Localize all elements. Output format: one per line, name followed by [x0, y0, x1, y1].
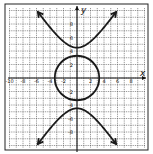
y-tick-label: 4 — [70, 48, 73, 54]
y-tick-label: -2 — [68, 89, 73, 95]
y-tick-label: 2 — [70, 62, 73, 68]
y-tick-label: 8 — [70, 21, 73, 27]
coordinate-graph: -10-8-6-4-224688642-2-4-6-8 x y — [0, 0, 153, 154]
x-tick-label: -10 — [5, 78, 13, 84]
x-axis-label: x — [139, 68, 146, 78]
x-tick-label: -2 — [61, 78, 66, 84]
y-tick-label: -4 — [68, 102, 73, 108]
x-tick-label: 4 — [102, 78, 105, 84]
x-tick-label: -4 — [48, 78, 53, 84]
y-axis-label: y — [80, 5, 87, 15]
x-tick-label: 2 — [89, 78, 92, 84]
x-tick-label: -6 — [34, 78, 39, 84]
x-tick-label: 6 — [116, 78, 119, 84]
y-tick-label: -6 — [68, 116, 73, 122]
x-tick-label: -8 — [21, 78, 26, 84]
y-tick-label: -8 — [68, 129, 73, 135]
y-tick-label: 6 — [70, 35, 73, 41]
x-tick-label: 8 — [129, 78, 132, 84]
